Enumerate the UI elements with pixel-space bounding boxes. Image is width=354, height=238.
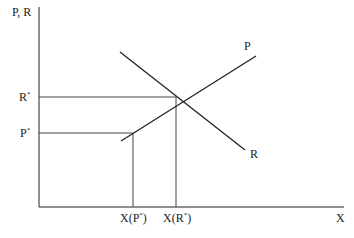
p-star-label: P* bbox=[20, 126, 31, 140]
curve-p-label: P bbox=[244, 39, 251, 53]
y-axis-label: P, R bbox=[12, 5, 31, 19]
curve-r-label: R bbox=[250, 147, 258, 161]
x-axis-label: X bbox=[336, 211, 345, 225]
curve-r bbox=[120, 52, 245, 150]
r-star-label: R* bbox=[19, 90, 31, 104]
intersection-diagram: P, R X P R R* P* X(P*) X(R*) bbox=[0, 0, 354, 238]
x-p-star-label: X(P*) bbox=[120, 211, 147, 225]
x-r-star-label: X(R*) bbox=[163, 211, 191, 225]
